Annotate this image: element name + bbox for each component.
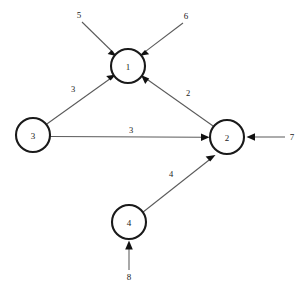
external-input-6-line xyxy=(144,23,183,53)
external-input-8-arrowhead xyxy=(125,241,133,250)
edge-3-to-2-line xyxy=(50,136,204,137)
graph-svg: 1 2 3 4 3 2 3 4 5 6 7 8 xyxy=(0,0,307,296)
edge-4-to-2-line xyxy=(143,159,212,213)
node-4-label: 4 xyxy=(127,218,132,228)
external-input-6 xyxy=(140,23,183,56)
edge-4-to-2-arrowhead xyxy=(206,155,216,162)
external-input-5 xyxy=(82,22,117,56)
external-input-label-6: 6 xyxy=(184,11,189,21)
node-3[interactable]: 3 xyxy=(16,118,50,152)
external-input-8 xyxy=(125,241,133,271)
external-input-label-8: 8 xyxy=(127,272,132,282)
edge-2-to-1 xyxy=(141,75,214,127)
edge-4-to-2 xyxy=(143,155,216,213)
edge-3-to-1-line xyxy=(47,78,112,125)
node-2[interactable]: 2 xyxy=(210,120,244,154)
edge-weight-3-to-1: 3 xyxy=(71,84,75,94)
external-input-7 xyxy=(247,133,286,141)
node-3-label: 3 xyxy=(31,131,36,141)
edge-weight-2-to-1: 2 xyxy=(186,88,190,98)
node-1-label: 1 xyxy=(126,62,131,72)
edge-weight-3-to-2: 3 xyxy=(129,125,133,135)
external-input-label-5: 5 xyxy=(77,10,82,20)
edge-2-to-1-line xyxy=(145,78,214,127)
node-1[interactable]: 1 xyxy=(111,49,145,83)
node-4[interactable]: 4 xyxy=(112,205,146,239)
node-2-label: 2 xyxy=(225,133,230,143)
external-input-7-arrowhead xyxy=(247,133,256,141)
edge-weight-4-to-2: 4 xyxy=(169,169,174,179)
edge-3-to-1 xyxy=(47,75,117,125)
diagram-canvas: 1 2 3 4 3 2 3 4 5 6 7 8 xyxy=(0,0,307,296)
external-input-label-7: 7 xyxy=(290,132,295,142)
external-input-5-line xyxy=(82,22,113,53)
edge-3-to-2-arrowhead xyxy=(201,134,210,142)
